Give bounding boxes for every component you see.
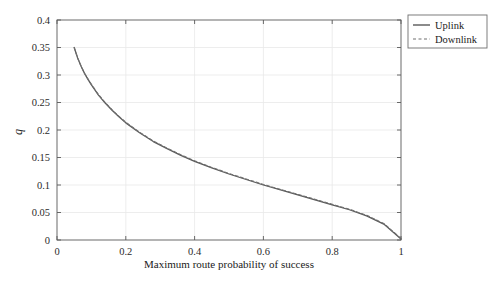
y-axis-label: q bbox=[11, 129, 25, 135]
x-tick-label: 0.2 bbox=[119, 246, 132, 257]
y-tick-label: 0.2 bbox=[37, 125, 50, 136]
y-tick-label: 0.15 bbox=[32, 152, 50, 163]
y-tick-label: 0.3 bbox=[37, 70, 50, 81]
y-tick-label: 0.1 bbox=[37, 180, 50, 191]
x-tick-label: 0.6 bbox=[257, 246, 270, 257]
y-tick-label: 0.4 bbox=[37, 15, 51, 26]
x-tick-label: 1 bbox=[398, 246, 403, 257]
y-tick-label: 0.25 bbox=[32, 97, 50, 108]
x-tick-label: 0.4 bbox=[188, 246, 202, 257]
x-tick-label: 0.8 bbox=[326, 246, 339, 257]
x-tick-label: 0 bbox=[54, 246, 59, 257]
legend-label-downlink[interactable]: Downlink bbox=[435, 34, 478, 45]
legend-label-uplink[interactable]: Uplink bbox=[435, 20, 465, 31]
y-tick-label: 0.05 bbox=[32, 207, 50, 218]
y-tick-label: 0 bbox=[45, 235, 50, 246]
chart-legend[interactable]: UplinkDownlink bbox=[408, 15, 487, 48]
x-axis-label: Maximum route probability of success bbox=[144, 258, 314, 270]
line-chart: 00.20.40.60.81 00.050.10.150.20.250.30.3… bbox=[0, 0, 495, 289]
y-tick-label: 0.35 bbox=[32, 42, 50, 53]
figure-container: 00.20.40.60.81 00.050.10.150.20.250.30.3… bbox=[0, 0, 495, 289]
